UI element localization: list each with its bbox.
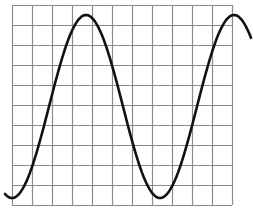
sine-curve xyxy=(5,15,251,198)
sine-wave-figure xyxy=(0,0,253,220)
